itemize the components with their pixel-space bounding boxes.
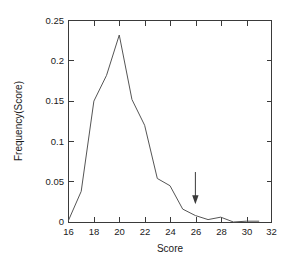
y-tick-label-3: 0.15 [46, 95, 65, 106]
x-tick-label-0: 16 [63, 226, 74, 237]
y-axis-title: Frequency(Score) [13, 81, 24, 161]
y-tick-label-1: 0.05 [46, 176, 65, 187]
x-axis-title: Score [157, 243, 184, 254]
x-tick-labels: 16 18 20 22 24 26 28 30 32 [63, 226, 277, 237]
y-tick-label-4: 0.2 [51, 55, 64, 66]
chart-figure: 0 0.05 0.1 0.15 0.2 0.25 [0, 0, 292, 266]
y-tick-labels: 0 0.05 0.1 0.15 0.2 0.25 [46, 15, 65, 228]
y-tick-label-5: 0.25 [46, 15, 65, 26]
x-tick-label-3: 22 [140, 226, 151, 237]
x-tick-label-4: 24 [165, 226, 176, 237]
x-tick-label-1: 18 [89, 226, 100, 237]
x-tick-label-2: 20 [114, 226, 125, 237]
frequency-distribution-chart: 0 0.05 0.1 0.15 0.2 0.25 [0, 0, 292, 266]
x-tick-label-7: 30 [242, 226, 253, 237]
arrow-head-icon [192, 195, 198, 204]
x-tick-label-8: 32 [266, 226, 277, 237]
x-tick-label-5: 26 [191, 226, 202, 237]
y-tick-label-2: 0.1 [51, 136, 64, 147]
y-axis-ticks [69, 21, 272, 223]
x-axis-ticks [69, 21, 272, 223]
plot-frame [69, 21, 272, 223]
annotation-arrow-down [192, 172, 198, 204]
x-tick-label-6: 28 [216, 226, 227, 237]
frequency-curve [69, 35, 259, 222]
